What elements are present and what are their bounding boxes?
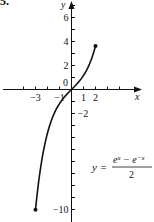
y-axis-label: y [60, 0, 66, 10]
x-tick-label: 1 [81, 92, 86, 103]
sinh-graph: 5. −3−112 642−2−10 x y 0 y = ex − e−x 2 [0, 0, 154, 222]
endpoint-dot [34, 208, 38, 212]
endpoint-dot [94, 44, 98, 48]
y-ticks [72, 6, 76, 210]
x-tick-label: 2 [93, 92, 98, 103]
x-axis-label: x [134, 91, 140, 102]
origin-label: 0 [63, 77, 68, 88]
x-tick-label: −1 [54, 92, 65, 103]
formula-numerator: ex − e−x [113, 154, 145, 165]
function-formula: y = ex − e−x 2 [91, 154, 152, 180]
formula-lhs: y = [91, 161, 107, 173]
axes [3, 1, 142, 222]
y-tick-labels: 642−2−10 [53, 12, 88, 215]
problem-number: 5. [0, 0, 9, 8]
y-tick-label: 6 [64, 12, 69, 23]
y-tick-label: −2 [78, 108, 89, 119]
y-tick-label: −10 [53, 204, 69, 215]
x-tick-label: −3 [30, 92, 41, 103]
formula-denominator: 2 [129, 169, 134, 180]
y-tick-label: 2 [64, 60, 69, 71]
y-tick-label: 4 [64, 36, 69, 47]
